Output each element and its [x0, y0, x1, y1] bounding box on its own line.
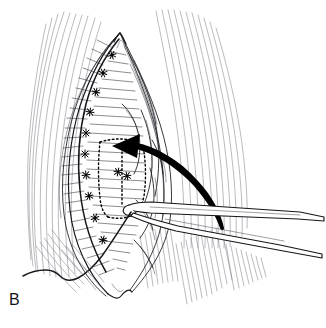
surgical-illustration-figure: B — [0, 0, 326, 328]
figure-background — [0, 0, 326, 328]
panel-label-b: B — [9, 292, 20, 308]
illustration-canvas — [0, 0, 326, 328]
